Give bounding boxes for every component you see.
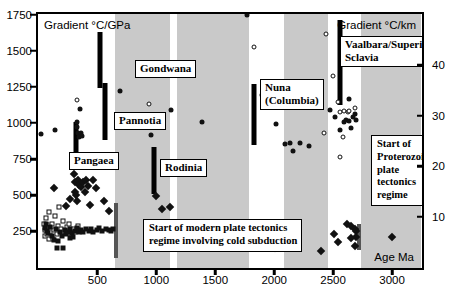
y-tick-mark-750 (30, 158, 37, 161)
data-point-open-circle (335, 100, 340, 105)
note-start-proterozoic-plate-tectonics: Start of Proterozoic plate tectonics reg… (371, 135, 424, 206)
x-tick-label-3000: 3000 (379, 274, 405, 286)
data-point-open-circle (340, 134, 345, 139)
figure-root: Gradient °C/GPa Gradient °C/km Age Ma Go… (0, 0, 460, 305)
y-tick-label-750: 750 (0, 153, 32, 165)
y-tick-mark-1500 (30, 49, 37, 52)
data-point-open-circle (322, 131, 327, 136)
y2-tick-mark-30 (417, 114, 424, 117)
x-tick-mark-1500 (214, 268, 217, 275)
data-point-filled-circle (79, 134, 84, 139)
data-point-open-circle (251, 45, 256, 50)
data-point-filled-circle (149, 132, 154, 137)
data-point-filled-circle (328, 108, 333, 113)
y-tick-mark-250 (30, 230, 37, 233)
data-point-filled-circle (38, 131, 43, 136)
note-start-modern-plate-tectonics: Start of modern plate tectonics regime i… (143, 219, 302, 252)
data-point-filled-circle (347, 96, 352, 101)
data-point-filled-square (56, 238, 61, 243)
data-point-open-circle (331, 74, 336, 79)
data-point-filled-circle (288, 140, 293, 145)
x-tick-label-1500: 1500 (202, 274, 228, 286)
data-point-filled-diamond (50, 184, 58, 192)
data-point-filled-diamond (86, 201, 94, 209)
y-tick-label-1250: 1250 (0, 81, 32, 93)
data-point-open-circle (146, 101, 151, 106)
data-point-filled-diamond (61, 202, 69, 210)
data-point-open-circle (324, 31, 329, 36)
y-tick-label-1500: 1500 (0, 45, 32, 57)
y-tick-label-1000: 1000 (0, 117, 32, 129)
y2-tick-label-20: 20 (432, 160, 445, 172)
data-point-filled-circle (77, 107, 82, 112)
data-point-open-square (53, 214, 58, 219)
y2-tick-mark-20 (417, 165, 424, 168)
x-tick-mark-3000 (391, 268, 394, 275)
data-point-filled-diamond (73, 197, 81, 205)
data-point-open-circle (337, 155, 342, 160)
x-tick-label-500: 500 (88, 274, 107, 286)
data-point-filled-circle (244, 13, 249, 18)
data-point-filled-circle (354, 118, 359, 123)
x-tick-mark-2500 (332, 268, 335, 275)
data-point-filled-square (61, 246, 66, 251)
data-point-filled-diamond (92, 184, 100, 192)
note-prot-line4: tectonics (377, 176, 424, 189)
label-nuna: Nuna (Columbia) (260, 79, 324, 110)
label-pangaea: Pangaea (69, 152, 119, 170)
data-point-filled-square (71, 235, 76, 240)
y-tick-mark-1250 (30, 86, 37, 89)
data-point-filled-circle (274, 121, 279, 126)
data-point-filled-circle (199, 120, 204, 125)
data-point-open-square (60, 218, 65, 223)
data-point-filled-square (54, 246, 59, 251)
data-point-open-circle (353, 105, 358, 110)
data-point-filled-diamond (100, 197, 108, 205)
y2-tick-mark-40 (417, 64, 424, 67)
label-gondwana: Gondwana (135, 60, 196, 78)
note-prot-line1: Start of (377, 138, 424, 151)
supercontinent-bar-gondwana (98, 32, 103, 88)
y-tick-label-250: 250 (0, 225, 32, 237)
label-vaalbara-line1: Vaalbara/Superia/ (345, 38, 424, 51)
supercontinent-bar-pannotia (103, 83, 108, 140)
data-point-filled-circle (297, 141, 302, 146)
data-point-filled-square (48, 224, 53, 229)
x-tick-mark-1000 (155, 268, 158, 275)
y2-tick-label-10: 10 (432, 211, 445, 223)
data-point-filled-diamond (104, 207, 112, 215)
data-point-filled-circle (307, 144, 312, 149)
note-prot-line5: regime (377, 189, 424, 202)
x-tick-label-2500: 2500 (320, 274, 346, 286)
note-prot-line2: Proterozoic (377, 151, 424, 164)
note-modern-line2: regime involving cold subduction (149, 235, 297, 248)
y-tick-label-500: 500 (0, 189, 32, 201)
data-point-filled-circle (290, 148, 295, 153)
data-point-filled-diamond (334, 238, 342, 246)
data-point-filled-square (111, 226, 116, 231)
y-axis-title: Gradient °C/GPa (44, 19, 130, 31)
y-tick-label-1750: 1750 (0, 9, 32, 21)
x-axis-title: Age Ma (374, 251, 414, 263)
data-point-open-square (47, 210, 52, 215)
data-point-open-circle (74, 98, 79, 103)
y-tick-mark-1000 (30, 122, 37, 125)
x-tick-label-2000: 2000 (261, 274, 287, 286)
y2-tick-mark-10 (417, 216, 424, 219)
x-tick-mark-500 (96, 268, 99, 275)
label-vaalbara: Vaalbara/Superia/ Sclavia (340, 36, 424, 67)
x-tick-label-1000: 1000 (144, 274, 170, 286)
data-point-filled-circle (118, 88, 123, 93)
label-pannotia: Pannotia (114, 112, 166, 130)
data-point-open-square (44, 215, 49, 220)
y2-tick-label-40: 40 (432, 59, 445, 71)
label-nuna-line1: Nuna (265, 81, 319, 94)
plot-area: Gradient °C/GPa Gradient °C/km Age Ma Go… (36, 12, 424, 270)
x-tick-mark-2000 (273, 268, 276, 275)
data-point-filled-circle (337, 128, 342, 133)
supercontinent-bar-nuna-columbia (251, 84, 256, 145)
data-point-filled-circle (53, 128, 58, 133)
data-point-filled-circle (168, 108, 173, 113)
data-point-open-circle (347, 108, 352, 113)
data-point-filled-circle (332, 114, 337, 119)
